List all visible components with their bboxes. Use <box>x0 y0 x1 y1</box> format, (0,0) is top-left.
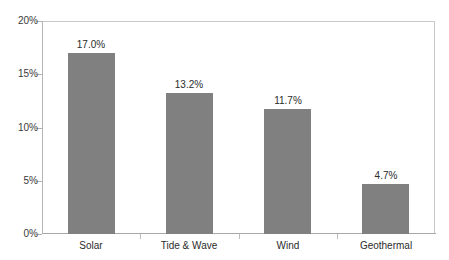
x-axis-category-label: Tide & Wave <box>134 240 244 252</box>
bar-value-label: 17.0% <box>51 39 131 50</box>
bar-chart: 0%5%10%15%20% 17.0%Solar13.2%Tide & Wave… <box>0 0 449 260</box>
x-axis-tick <box>140 234 141 239</box>
y-axis-label: 20% <box>0 16 38 26</box>
x-axis-category-label: Geothermal <box>331 240 441 252</box>
y-axis-label-text: 10% <box>4 123 38 133</box>
y-axis-label-text: 5% <box>4 176 38 186</box>
y-axis-label-text: 0% <box>4 229 38 239</box>
y-axis-label: 5% <box>0 176 38 186</box>
bar-value-label: 4.7% <box>346 170 426 181</box>
bar <box>166 93 213 234</box>
y-axis-label-text: 20% <box>4 16 38 26</box>
bar <box>362 184 409 234</box>
bar-value-label: 13.2% <box>149 79 229 90</box>
x-axis-category-label: Solar <box>36 240 146 252</box>
bar-value-label: 11.7% <box>248 95 328 106</box>
y-axis-label-text: 15% <box>4 69 38 79</box>
bar <box>68 53 115 234</box>
x-axis-tick <box>337 234 338 239</box>
x-axis-tick <box>239 234 240 239</box>
y-axis-label: 10% <box>0 123 38 133</box>
bar <box>264 109 311 234</box>
y-axis-label: 15% <box>0 69 38 79</box>
y-axis-label: 0% <box>0 229 38 239</box>
y-axis-line <box>42 21 43 234</box>
x-axis-category-label: Wind <box>233 240 343 252</box>
